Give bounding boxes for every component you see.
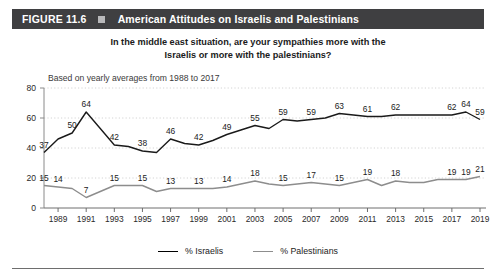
y-axis-tick-label: 80 <box>26 84 36 93</box>
x-axis-tick-label: 2017 <box>443 214 462 224</box>
israelis-data-label: 61 <box>363 104 373 114</box>
x-axis-tick-label: 1997 <box>161 214 180 224</box>
legend-label-israelis: % Israelis <box>185 246 223 256</box>
israelis-data-label: 42 <box>110 132 120 142</box>
israelis-data-label: 59 <box>475 107 485 117</box>
palestinians-data-label: 18 <box>250 168 260 178</box>
x-axis-tick-label: 2003 <box>246 214 265 224</box>
y-axis-tick-label: 40 <box>26 143 36 153</box>
palestinians-data-labels-group: 151471515131314181517151918191921 <box>39 164 485 195</box>
palestinians-data-label: 19 <box>363 167 373 177</box>
x-axis-tick-label: 1995 <box>133 214 152 224</box>
israelis-data-label: 49 <box>222 122 232 132</box>
chart-note: Based on yearly averages from 1988 to 20… <box>48 73 220 83</box>
x-axis-ticks-group <box>58 208 480 212</box>
x-axis-tick-label: 2019 <box>471 214 490 224</box>
palestinians-data-label: 15 <box>110 173 120 183</box>
chart-legend: % Israelis % Palestinians <box>0 246 496 256</box>
y-axis-tick-label: 0 <box>31 203 36 213</box>
line-chart-svg: 020406080 198919911993199519971999200120… <box>0 84 496 244</box>
israelis-data-label: 64 <box>461 99 471 109</box>
chart-subtitle: In the middle east situation, are your s… <box>0 36 496 62</box>
legend-line-palestinians-icon <box>253 251 273 252</box>
x-axis-tick-label: 2001 <box>218 214 237 224</box>
y-axis-tick-label: 20 <box>26 173 36 183</box>
chart-plot-area: 020406080 198919911993199519971999200120… <box>0 84 496 244</box>
figure-header-bar: FIGURE 11.6 American Attitudes on Israel… <box>12 9 484 29</box>
israelis-data-label: 42 <box>194 132 204 142</box>
x-axis-tick-label: 2009 <box>330 214 349 224</box>
palestinians-data-label: 13 <box>166 176 176 186</box>
figure-number-label: FIGURE 11.6 <box>22 13 87 25</box>
israelis-data-label: 64 <box>82 99 92 109</box>
palestinians-data-label: 14 <box>222 174 232 184</box>
x-axis-tick-label: 1993 <box>105 214 124 224</box>
palestinians-data-label: 19 <box>461 167 471 177</box>
y-axis-tick-label: 60 <box>26 113 36 123</box>
legend-line-israelis-icon <box>158 251 178 252</box>
palestinians-data-label: 18 <box>391 168 401 178</box>
israelis-data-label: 62 <box>447 102 457 112</box>
chart-subtitle-line-1: In the middle east situation, are your s… <box>0 36 496 49</box>
israelis-data-label: 62 <box>391 102 401 112</box>
chart-subtitle-line-2: Israelis or more with the palestinians? <box>0 49 496 62</box>
israelis-data-label: 55 <box>250 113 260 123</box>
palestinians-data-label: 21 <box>475 164 485 174</box>
y-axis-labels-group: 020406080 <box>26 84 36 213</box>
israelis-data-label: 46 <box>166 126 176 136</box>
figure-title: American Attitudes on Israelis and Pales… <box>118 13 359 25</box>
x-axis-tick-label: 2005 <box>274 214 293 224</box>
israelis-data-label: 38 <box>138 138 148 148</box>
israelis-data-label: 63 <box>335 101 345 111</box>
palestinians-data-label: 7 <box>84 185 89 195</box>
legend-label-palestinians: % Palestinians <box>280 246 338 256</box>
israelis-data-label: 59 <box>278 107 288 117</box>
figure-bottom-rule <box>12 268 484 269</box>
palestinians-data-label: 19 <box>447 167 457 177</box>
figure-container: FIGURE 11.6 American Attitudes on Israel… <box>0 0 496 280</box>
x-axis-tick-label: 1999 <box>189 214 208 224</box>
israelis-data-label: 59 <box>307 107 317 117</box>
x-axis-tick-label: 1991 <box>77 214 96 224</box>
x-axis-labels-group: 1989199119931995199719992001200320052007… <box>49 214 490 224</box>
x-axis-tick-label: 2013 <box>386 214 405 224</box>
x-axis-tick-label: 2015 <box>414 214 433 224</box>
palestinians-data-label: 13 <box>194 176 204 186</box>
israelis-data-label: 50 <box>67 120 77 130</box>
palestinians-data-label: 14 <box>53 174 63 184</box>
israelis-data-labels-group: 3750644238464249555959636162626459 <box>39 99 485 150</box>
x-axis-tick-label: 1989 <box>49 214 68 224</box>
palestinians-data-label: 15 <box>138 173 148 183</box>
israelis-data-label: 37 <box>39 140 49 150</box>
square-bullet-icon <box>98 16 105 23</box>
legend-item-palestinians: % Palestinians <box>253 246 338 256</box>
palestinians-data-label: 15 <box>278 173 288 183</box>
x-axis-tick-label: 2011 <box>358 214 376 224</box>
legend-item-israelis: % Israelis <box>158 246 223 256</box>
palestinians-data-label: 15 <box>39 173 49 183</box>
x-axis-tick-label: 2007 <box>302 214 321 224</box>
palestinians-data-label: 15 <box>335 173 345 183</box>
palestinians-data-label: 17 <box>307 170 317 180</box>
